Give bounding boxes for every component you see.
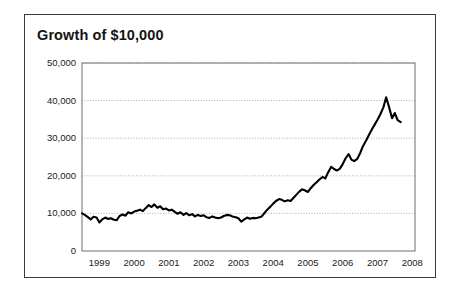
plot-area: 010,00020,00030,00040,00050,000 19992000… [25,15,437,279]
series-line-growth [82,97,401,222]
x-axis-tick-label: 2002 [187,257,221,268]
y-axis-tick-label: 40,000 [30,95,76,106]
x-axis-tick-label: 1999 [82,257,116,268]
y-axis-tick-label: 50,000 [30,57,76,68]
line-chart-svg [25,15,437,279]
x-axis-tick-label: 2000 [117,257,151,268]
x-axis-tick-label: 2006 [326,257,360,268]
axis-lines [82,63,415,251]
plot-frame [82,63,415,251]
x-axis-tick-label: 2004 [256,257,290,268]
gridlines [82,63,415,213]
x-axis-tick-label: 2008 [395,257,429,268]
x-axis-tick-label: 2005 [291,257,325,268]
y-axis-tick-label: 10,000 [30,207,76,218]
y-axis-tick-label: 30,000 [30,132,76,143]
y-axis-tick-label: 20,000 [30,170,76,181]
x-axis-tick-label: 2007 [360,257,394,268]
x-axis-tick-label: 2001 [152,257,186,268]
chart-card: Growth of $10,000 010,00020,00030,00040,… [24,14,436,278]
y-axis-tick-label: 0 [30,245,76,256]
x-axis-tick-label: 2003 [221,257,255,268]
